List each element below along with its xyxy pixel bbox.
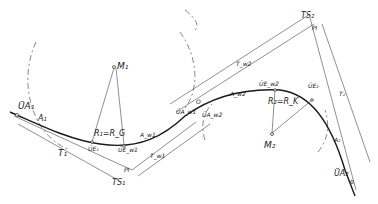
point-ue2 [311,99,314,102]
circle-2-dashed-right [318,110,328,152]
point-m1 [113,66,116,69]
alignment-curve [10,90,355,196]
label-ue1: ÜE₁ [88,145,99,152]
label-tw1: T_w1 [150,152,165,160]
point-ue1 [91,141,94,144]
label-pi1: PI [124,166,130,173]
label-m2: M₂ [264,140,276,150]
label-uew2: ÜE_w2 [259,80,279,88]
label-ts1: TS₁ [112,178,125,187]
dim-t2 [322,24,370,162]
label-tw2: T_w2 [236,60,252,68]
point-uew2 [274,89,277,92]
label-t2: T₂ [339,90,346,97]
label-r1: R₁=R_G [94,129,125,138]
label-r2: R₂=R_K [268,97,299,106]
label-a2: A₂ [333,136,341,143]
label-ts2: TS₂ [301,11,315,20]
label-o: O [196,98,201,105]
tangent-t1 [14,116,132,170]
tangent-tw1 [132,122,196,170]
circle-1-dashed-right [180,32,195,108]
label-aw2: A_w2 [229,90,246,98]
label-t1: T₁ [58,148,67,158]
point-ua1 [16,114,19,117]
alignment-diagram: M₁ M₂ ÜA₁ A₁ T₁ ÜE₁ R₁=R_G ÜE_w1 A_w1 T_… [0,0,378,204]
label-uaw2: ÜA_w2 [202,111,222,119]
circle-1-dashed [28,42,70,150]
circle-2-dashed-left [203,104,212,140]
tangent-t2 [310,18,356,190]
label-aw1: A_w1 [139,131,156,139]
label-ua1: ÜA₁ [18,101,35,111]
point-ua2 [351,181,354,184]
label-pi2: PI [312,24,318,31]
label-uew1: ÜE_w1 [118,146,138,154]
label-ua2: ÜA₂ [334,168,349,178]
label-m1: M₁ [117,61,129,71]
circle-1-dashed-top [185,10,197,30]
label-ue2: ÜE₂ [308,82,319,89]
label-uaw1: ÜA_w1 [176,108,196,116]
label-a1: A₁ [37,114,47,123]
point-m2 [271,133,274,136]
